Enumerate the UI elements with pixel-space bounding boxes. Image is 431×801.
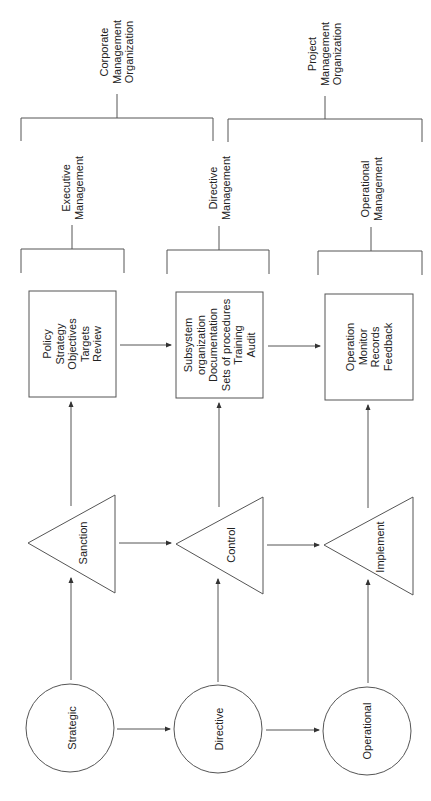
box-line: Monitor	[357, 323, 370, 371]
label-line: Management	[72, 156, 85, 220]
triangle-control-label: Control	[225, 527, 238, 562]
label-line: Management	[319, 22, 332, 86]
executive-bracket	[21, 225, 124, 273]
circle-strategic-label: Strategic	[66, 706, 79, 749]
box-line: Audit	[244, 299, 257, 391]
corporate-bracket	[21, 94, 213, 141]
label-line: Executive	[60, 156, 73, 220]
label-line: Operational	[359, 157, 372, 221]
triangle-sanction-label: Sanction	[77, 522, 90, 565]
label-line: Management	[111, 20, 124, 84]
box-line: Review	[91, 318, 104, 369]
directive-bracket	[167, 226, 269, 274]
box-line: Records	[369, 323, 382, 371]
label-operational-management: Operational Management	[359, 157, 384, 221]
box-executive-text: Policy Strategy Objectives Targets Revie…	[41, 318, 104, 369]
box-directive-text: Subsystem organization Documentation Set…	[182, 299, 257, 391]
box-line: Training	[232, 299, 245, 391]
project-bracket	[228, 96, 422, 142]
label-line: Corporate	[98, 20, 111, 84]
operational-bracket	[318, 227, 422, 275]
label-line: Directive	[207, 156, 220, 220]
box-line: Sets of procedures	[219, 299, 232, 391]
box-line: Strategy	[53, 318, 66, 369]
box-line: Objectives	[66, 318, 79, 369]
label-line: Organization	[123, 20, 136, 84]
label-line: Organization	[331, 22, 344, 86]
box-line: Subsystem	[182, 299, 195, 391]
box-line: Feedback	[382, 323, 395, 371]
diagram-canvas	[0, 0, 431, 801]
circle-operational-label: Operational	[361, 703, 374, 760]
box-line: Documentation	[207, 299, 220, 391]
box-line: Policy	[41, 318, 54, 369]
box-line: Targets	[78, 318, 91, 369]
circle-directive-label: Directive	[213, 708, 226, 751]
label-project-organization: Project Management Organization	[306, 22, 344, 86]
label-corporate-organization: Corporate Management Organization	[98, 20, 136, 84]
label-executive-management: Executive Management	[60, 156, 85, 220]
label-line: Project	[306, 22, 319, 86]
box-operational-text: Operation Monitor Records Feedback	[344, 323, 394, 371]
box-line: Operation	[344, 323, 357, 371]
label-line: Management	[371, 157, 384, 221]
triangle-control	[176, 497, 263, 594]
triangle-implement-label: Implement	[374, 521, 387, 572]
label-directive-management: Directive Management	[207, 156, 232, 220]
label-line: Management	[219, 156, 232, 220]
box-line: organization	[194, 299, 207, 391]
